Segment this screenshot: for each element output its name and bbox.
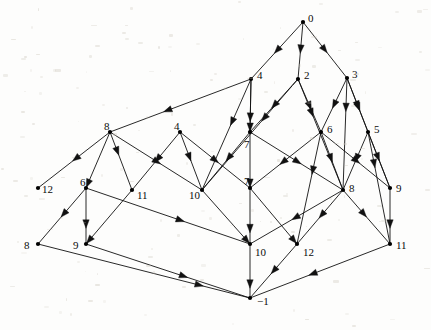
graph-node-n15[interactable] [388, 186, 392, 190]
edge-arrowhead [289, 235, 297, 244]
scan-speck [177, 234, 180, 237]
edge-arrowhead [307, 108, 313, 117]
edge-arrowhead [343, 103, 349, 112]
scan-speck [305, 319, 309, 320]
scan-speck [1, 168, 5, 170]
edge-arrowhead [113, 146, 119, 155]
scan-speck [238, 1, 241, 2]
graph-node-n9[interactable] [36, 186, 40, 190]
scan-speck [103, 300, 106, 303]
scan-speck [21, 252, 27, 254]
scan-speck [306, 226, 307, 227]
scan-speck [21, 58, 25, 61]
scan-speck [293, 309, 295, 312]
scan-speck [312, 65, 316, 68]
scan-speck [171, 113, 173, 115]
edge-arrowhead [292, 213, 301, 220]
scan-speck [3, 74, 8, 77]
graph-node-n19[interactable] [295, 242, 299, 246]
scan-speck [13, 180, 18, 183]
scan-speck [361, 158, 362, 160]
graph-node-n10[interactable] [84, 186, 88, 190]
graph-node-n7[interactable] [319, 130, 323, 134]
scan-speck [224, 87, 226, 89]
graph-node-n6[interactable] [248, 130, 252, 134]
scan-speck [214, 73, 217, 75]
edge-arrowhead [280, 157, 289, 165]
graph-node-n11[interactable] [130, 188, 134, 192]
scan-speck [211, 151, 214, 153]
scan-speck [251, 209, 253, 212]
graph-node-n18[interactable] [248, 242, 252, 246]
edge-arrowhead [326, 153, 332, 162]
edge-arrowhead [86, 178, 92, 187]
edge-arrowhead [185, 152, 191, 161]
diagram-canvas: 042384765126111078989101211−1 [0, 0, 431, 330]
graph-node-n20[interactable] [388, 242, 392, 246]
scan-speck [138, 130, 140, 131]
edge-arrowhead [298, 45, 304, 54]
scan-speck [38, 8, 39, 10]
scan-speck [89, 55, 92, 58]
graph-node-n17[interactable] [84, 242, 88, 246]
scan-speck [239, 203, 242, 204]
scan-speck [381, 220, 386, 223]
scan-speck [330, 198, 333, 200]
graph-node-n14[interactable] [341, 188, 345, 192]
scan-speck [292, 129, 293, 132]
graph-edge [250, 188, 297, 244]
scan-speck [298, 64, 300, 67]
graph-node-n21[interactable] [248, 296, 252, 300]
scan-speck [365, 91, 367, 94]
scan-speck [355, 42, 357, 43]
scan-speck [146, 116, 149, 119]
graph-node-n8[interactable] [366, 130, 370, 134]
scan-speck [76, 87, 79, 88]
edge-arrowhead [292, 157, 301, 164]
edge-arrowhead [247, 280, 253, 289]
edge-arrowhead [387, 220, 393, 229]
scan-speck [95, 45, 100, 47]
scan-speck [30, 177, 34, 180]
scan-speck [113, 133, 117, 135]
scan-speck [21, 111, 24, 113]
scan-speck [39, 92, 42, 95]
graph-node-n16[interactable] [36, 242, 40, 246]
graph-node-n0[interactable] [301, 20, 305, 24]
scan-speck [59, 311, 62, 313]
scan-speck [95, 284, 100, 286]
scan-speck [160, 219, 162, 222]
scan-speck [395, 11, 399, 13]
edge-arrowhead [247, 113, 253, 122]
scan-speck [97, 273, 98, 276]
scan-speck [186, 162, 188, 165]
graph-node-n4[interactable] [108, 130, 112, 134]
graph-node-n5[interactable] [178, 130, 182, 134]
scan-speck [209, 217, 213, 220]
scan-speck [333, 280, 339, 283]
scan-speck [210, 79, 213, 80]
scan-speck [345, 165, 348, 166]
scan-speck [130, 181, 134, 182]
graph-edge [110, 79, 251, 132]
scan-speck [264, 91, 268, 93]
scan-speck [72, 157, 75, 158]
scan-speck [122, 32, 127, 33]
scan-speck [411, 133, 417, 135]
scan-speck [86, 71, 87, 73]
graph-node-n13[interactable] [248, 186, 252, 190]
scan-speck [345, 313, 349, 315]
graph-edge [86, 244, 250, 298]
graph-edge [343, 78, 347, 190]
graph-node-n3[interactable] [345, 76, 349, 80]
scan-speck [419, 51, 423, 53]
scan-speck [310, 137, 313, 139]
edge-arrowhead [175, 216, 184, 222]
graph-edge [110, 132, 132, 190]
scan-speck [283, 195, 288, 197]
graph-node-n2[interactable] [296, 77, 300, 81]
graph-node-n12[interactable] [200, 188, 204, 192]
scan-speck [201, 264, 206, 267]
scan-speck [425, 189, 430, 190]
scan-speck [126, 107, 128, 110]
